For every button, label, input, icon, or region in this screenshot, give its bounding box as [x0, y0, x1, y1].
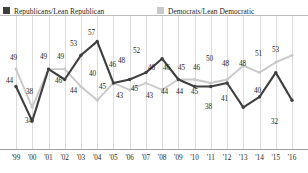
data-point-label: 53: [70, 40, 77, 48]
data-point: [209, 82, 212, 85]
data-point-label: 46: [55, 77, 62, 85]
series-lines: [0, 15, 308, 150]
data-point-label: 49: [40, 53, 47, 61]
legend-item-republican: Republicans/Lean Republican: [3, 1, 104, 13]
data-point-label: 34: [25, 117, 32, 125]
legend-item-democrat: Democrats/Lean Democratic: [157, 1, 254, 13]
data-point: [112, 81, 115, 84]
data-point-label: 46: [148, 64, 155, 72]
data-point-label: 32: [271, 118, 278, 126]
data-point-label: 46: [163, 64, 170, 72]
data-point: [79, 54, 82, 57]
data-point: [144, 82, 147, 85]
legend-swatch-republican-icon: [3, 7, 10, 14]
data-point-label: 40: [254, 87, 261, 95]
chart-legend: Republicans/Lean Republican Democrats/Le…: [0, 0, 308, 15]
data-point: [225, 81, 228, 84]
data-point: [160, 57, 163, 60]
data-point-label: 38: [26, 88, 33, 96]
legend-swatch-democrat-icon: [157, 7, 164, 14]
data-point: [291, 54, 294, 57]
plot-area: 4944383449494653445740454648435245464346…: [0, 15, 308, 150]
data-point-label: 43: [116, 92, 123, 100]
data-point-label: 45: [191, 88, 198, 96]
x-axis-tick-label: '16: [283, 154, 301, 162]
data-point: [79, 85, 82, 88]
data-point-label: 46: [193, 64, 200, 72]
data-point: [15, 68, 18, 71]
data-point-label: 43: [146, 92, 153, 100]
data-point: [63, 68, 66, 71]
data-point: [31, 106, 34, 109]
data-point-label: 53: [272, 46, 279, 54]
data-point: [258, 95, 261, 98]
data-point-label: 40: [89, 70, 96, 78]
data-point-label: 52: [133, 47, 140, 55]
data-point-label: 45: [99, 83, 106, 91]
data-point: [290, 99, 293, 102]
data-point-label: 51: [255, 50, 262, 58]
data-point-label: 44: [6, 77, 13, 85]
data-point-label: 44: [161, 88, 168, 96]
data-point: [177, 78, 180, 81]
x-axis: '99'00'01'02'03'04'05'06'07'08'09'10'11'…: [0, 150, 308, 173]
data-point: [226, 78, 229, 81]
data-point: [274, 61, 277, 64]
data-point: [96, 99, 99, 102]
data-point: [209, 85, 212, 88]
data-point-label: 57: [88, 29, 95, 37]
data-point-label: 41: [221, 95, 228, 103]
data-point-label: 49: [10, 54, 17, 62]
data-point-label: 49: [57, 53, 64, 61]
poll-line-chart: Republicans/Lean Republican Democrats/Le…: [0, 0, 308, 173]
data-point-label: 48: [118, 57, 125, 65]
data-point: [14, 85, 17, 88]
data-point-label: 38: [205, 103, 212, 111]
data-point: [274, 71, 277, 74]
data-point: [47, 67, 50, 70]
data-point: [96, 40, 99, 43]
data-point-label: 48: [239, 60, 246, 68]
data-point-label: 48: [222, 60, 229, 68]
data-point: [128, 78, 131, 81]
data-point: [242, 106, 245, 109]
data-point-label: 46: [109, 61, 116, 69]
data-point: [63, 78, 66, 81]
data-point-label: 50: [206, 55, 213, 63]
data-point-label: 44: [176, 88, 183, 96]
data-point-label: 45: [131, 85, 138, 93]
data-point-label: 45: [178, 64, 185, 72]
data-point-label: 44: [70, 87, 77, 95]
data-point: [258, 71, 261, 74]
data-point: [193, 78, 196, 81]
